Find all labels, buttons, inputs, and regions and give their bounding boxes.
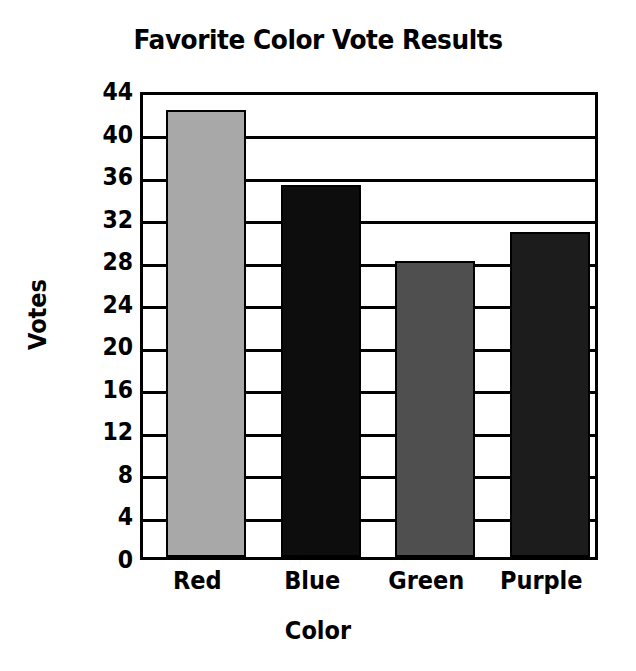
y-axis-tick-label: 28 — [45, 249, 133, 274]
x-axis-title: Color — [32, 616, 604, 645]
y-axis-tick-label: 8 — [45, 462, 133, 487]
plot-area — [140, 92, 598, 560]
y-axis-tick-label: 44 — [45, 79, 133, 104]
y-axis-tick-label: 0 — [45, 547, 133, 572]
bar — [510, 232, 590, 557]
y-axis-tick-label: 40 — [45, 122, 133, 147]
x-axis-tick-label: Red — [146, 566, 249, 595]
x-axis-tick-label: Green — [375, 566, 478, 595]
bar — [281, 185, 361, 557]
y-axis-tick-label: 16 — [45, 377, 133, 402]
bar-chart-figure: Favorite Color Vote Results Votes 444036… — [0, 0, 636, 671]
bar — [166, 110, 246, 557]
chart-title: Favorite Color Vote Results — [25, 24, 610, 55]
x-axis-tick-labels: RedBlueGreenPurple — [140, 566, 598, 606]
y-axis-tick-labels: 444036322824201612840 — [25, 92, 133, 560]
y-axis-tick-label: 32 — [45, 207, 133, 232]
y-axis-tick-label: 4 — [45, 504, 133, 529]
y-axis-tick-label: 24 — [45, 292, 133, 317]
x-axis-tick-label: Purple — [489, 566, 592, 595]
y-axis-tick-label: 20 — [45, 334, 133, 359]
bar — [395, 261, 475, 557]
x-axis-tick-label: Blue — [260, 566, 363, 595]
y-axis-tick-label: 36 — [45, 164, 133, 189]
y-axis-tick-label: 12 — [45, 419, 133, 444]
